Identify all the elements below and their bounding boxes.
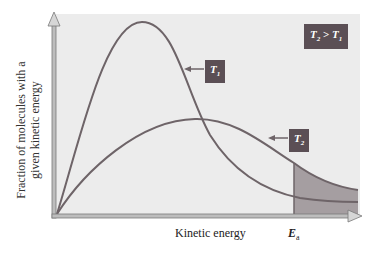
t1-symbol: T <box>210 63 217 75</box>
y-axis-label: Fraction of molecules with a given kinet… <box>8 40 48 220</box>
y-axis-label-line1: Fraction of molecules with a <box>14 61 28 198</box>
t1-subscript: 1 <box>217 70 221 78</box>
x-axis-label: Kinetic energy <box>175 226 246 241</box>
temperature-relation-tag: T2 > T1 <box>304 24 348 49</box>
rel-t1: T <box>332 28 339 40</box>
ea-subscript: a <box>296 233 300 242</box>
t2-subscript: 2 <box>301 139 305 147</box>
ea-label: Ea <box>288 226 300 242</box>
y-axis-label-line2: given kinetic energy <box>28 61 42 198</box>
rel-operator: > <box>320 28 332 40</box>
rel-t1-sub: 1 <box>339 35 343 43</box>
t2-symbol: T <box>294 132 301 144</box>
rel-t2: T <box>310 28 317 40</box>
ea-symbol: E <box>288 226 296 240</box>
t2-label-tag: T2 <box>289 129 309 152</box>
t1-label-tag: T1 <box>205 60 225 83</box>
